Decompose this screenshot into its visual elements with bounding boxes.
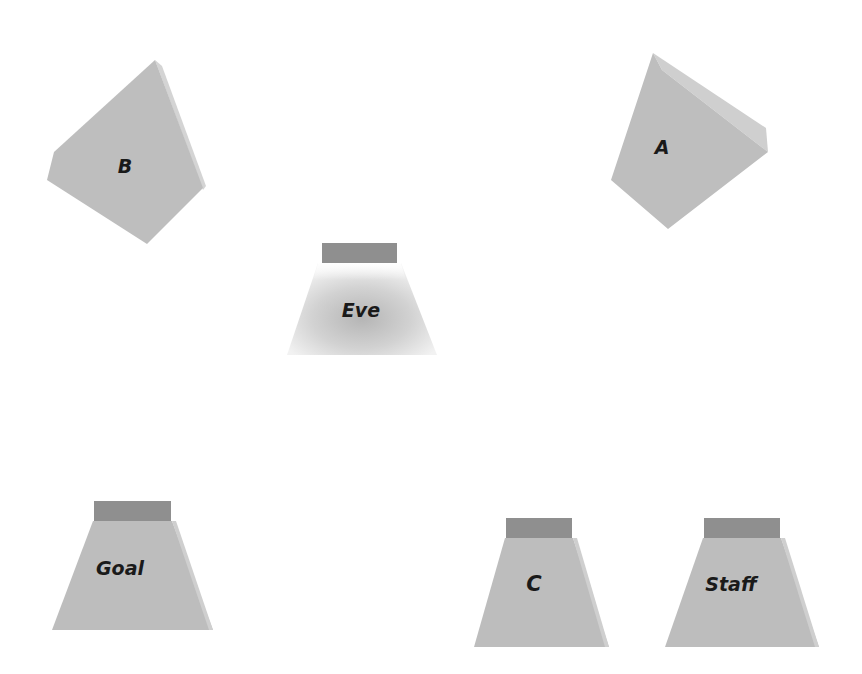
shape-goal-top-band — [94, 501, 171, 521]
shape-eve[interactable]: Eve — [287, 243, 437, 355]
shape-c-top-band — [506, 518, 572, 538]
shape-eve-top-fade — [313, 263, 406, 280]
shape-eve-top-band — [322, 243, 397, 263]
shape-staff-label: Staff — [705, 573, 759, 595]
shape-goal[interactable]: Goal — [52, 501, 213, 630]
shape-c-label: C — [526, 572, 542, 596]
shape-staff-top-band — [704, 518, 780, 538]
shape-goal-label: Goal — [96, 557, 144, 579]
shape-a[interactable]: A — [611, 53, 768, 229]
shape-b-label: B — [118, 155, 132, 177]
shape-a-label: A — [653, 136, 670, 158]
shape-eve-label: Eve — [342, 299, 380, 321]
shape-staff[interactable]: Staff — [665, 518, 819, 647]
shape-c[interactable]: C — [474, 518, 609, 647]
shape-b-main-face — [47, 60, 203, 244]
puzzle-scene: B A Eve Goal C Staff — [0, 0, 862, 674]
shape-b[interactable]: B — [47, 60, 206, 244]
